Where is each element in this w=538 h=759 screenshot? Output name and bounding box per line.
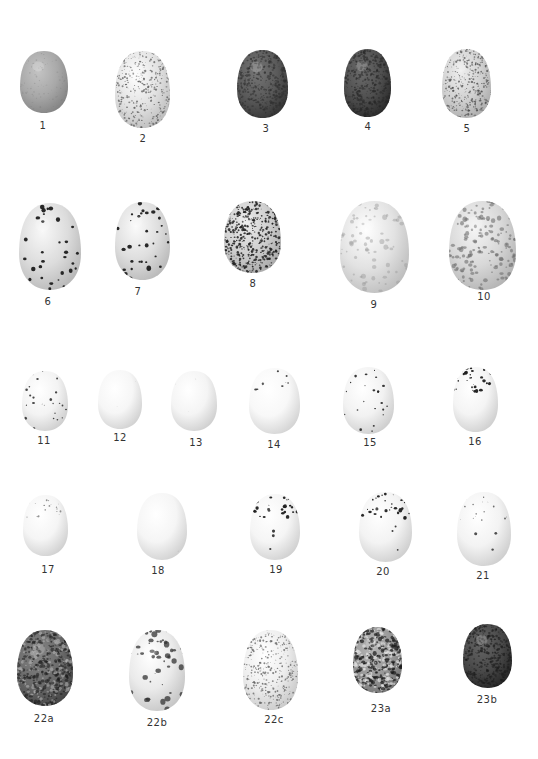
egg-speckle (483, 278, 488, 282)
egg-speckle (511, 682, 512, 683)
egg-speckle (129, 124, 130, 125)
egg-speckle (270, 74, 272, 76)
egg-speckle (49, 99, 50, 100)
egg-speckle (272, 88, 273, 89)
egg-speckle (128, 125, 130, 127)
egg-speckle (71, 645, 73, 646)
egg-speckle (245, 52, 247, 55)
egg-speckle (359, 657, 361, 660)
egg-speckle (281, 99, 282, 100)
egg-speckle (286, 51, 287, 52)
egg-speckle (224, 257, 226, 259)
egg-speckle (492, 251, 494, 253)
egg-speckle (282, 76, 285, 78)
egg-speckle (374, 84, 376, 86)
egg-speckle (284, 644, 285, 645)
egg-speckle (48, 93, 49, 94)
egg-speckle (155, 72, 156, 74)
egg-speckle (474, 673, 476, 675)
egg-speckle (289, 639, 290, 640)
egg-speckle (353, 680, 354, 681)
egg-speckle (490, 91, 491, 92)
egg-speckle (460, 519, 461, 520)
egg-speckle (492, 672, 494, 675)
egg-speckle (395, 526, 397, 528)
egg-speckle (388, 65, 389, 66)
egg-speckle (51, 694, 53, 696)
egg-speckle (250, 636, 252, 638)
egg-speckle (277, 114, 278, 115)
egg-speckle (153, 116, 155, 118)
egg-speckle (265, 91, 266, 92)
egg-speckle (60, 510, 62, 512)
egg-speckle (268, 55, 270, 57)
egg-speckle (501, 653, 502, 654)
egg-speckle (503, 685, 505, 687)
egg-speckle (390, 100, 391, 101)
egg-speckle (65, 90, 67, 92)
egg-speckle (270, 83, 272, 85)
egg-speckle (345, 203, 349, 208)
egg-speckle (353, 75, 355, 77)
egg-speckle (265, 667, 266, 668)
egg-highlight (129, 215, 142, 227)
egg-speckle (162, 122, 164, 124)
egg-speckle (246, 262, 249, 265)
egg-speckle (236, 246, 239, 249)
egg-speckle (475, 629, 477, 631)
egg-speckle (267, 662, 269, 663)
egg-speckle (35, 683, 38, 685)
egg-speckle (469, 78, 471, 80)
egg-speckle (279, 246, 280, 247)
egg-speckle (357, 88, 358, 89)
egg-speckle (384, 102, 386, 103)
egg-speckle (371, 660, 372, 661)
egg-speckle (396, 649, 398, 650)
egg-speckle (496, 628, 497, 629)
egg-speckle (381, 685, 383, 687)
egg-speckle (449, 225, 452, 228)
egg-speckle (49, 207, 53, 211)
egg-speckle (257, 501, 259, 503)
egg-speckle (58, 630, 61, 632)
egg-speckle (245, 667, 246, 668)
egg-speckle (467, 673, 469, 675)
egg-speckle (277, 218, 279, 220)
egg-speckle (475, 64, 477, 66)
egg-speckle (118, 96, 119, 97)
egg-speckle (287, 702, 289, 704)
egg-speckle (289, 693, 290, 694)
egg-speckle (260, 116, 261, 117)
egg-speckle (44, 631, 45, 633)
egg-speckle (22, 632, 25, 634)
egg-speckle (468, 66, 469, 67)
egg-speckle (266, 238, 269, 240)
egg-speckle (50, 630, 53, 632)
egg-speckle (63, 256, 66, 258)
egg-speckle (499, 227, 504, 231)
egg-speckle (69, 660, 73, 663)
egg-speckle (340, 253, 342, 255)
egg-speckle (498, 666, 501, 668)
egg-speckle (477, 56, 479, 58)
egg-speckle (362, 99, 365, 102)
egg-speckle (467, 113, 469, 116)
egg-speckle (380, 50, 381, 51)
egg-speckle (276, 642, 278, 643)
egg-speckle (442, 56, 444, 57)
egg-speckle (511, 263, 513, 265)
egg-speckle (259, 369, 260, 370)
egg-speckle (345, 58, 347, 60)
egg-speckle (485, 232, 489, 236)
egg-speckle (259, 219, 260, 220)
egg-speckle (292, 661, 294, 662)
egg-speckle (32, 94, 33, 95)
egg-speckle (119, 103, 120, 104)
egg-speckle (26, 633, 28, 635)
egg-speckle (455, 83, 456, 84)
egg-speckle (474, 625, 476, 626)
egg-speckle (382, 74, 383, 75)
egg-speckle (157, 120, 158, 121)
egg-speckle (444, 95, 446, 96)
egg-18 (137, 493, 187, 560)
